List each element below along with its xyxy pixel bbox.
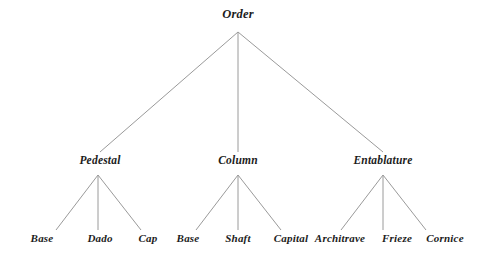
edge-group xyxy=(56,32,426,230)
tree-node-base-col: Base xyxy=(177,232,200,244)
tree-edge-order-to-entablature xyxy=(238,32,383,152)
tree-node-order: Order xyxy=(222,7,254,22)
tree-edge-entablature-to-architrave xyxy=(341,175,383,230)
tree-node-frieze: Frieze xyxy=(382,232,412,244)
tree-edge-pedestal-to-base-ped xyxy=(56,175,98,230)
order-hierarchy-diagram: OrderPedestalColumnEntablatureBaseDadoCa… xyxy=(0,0,481,258)
tree-node-entablature: Entablature xyxy=(353,154,412,166)
tree-edge-pedestal-to-cap xyxy=(98,175,141,230)
tree-node-cap: Cap xyxy=(139,232,158,244)
tree-edge-column-to-base-col xyxy=(196,175,238,230)
tree-node-column: Column xyxy=(218,154,258,166)
tree-node-base-ped: Base xyxy=(31,232,54,244)
tree-node-cornice: Cornice xyxy=(426,232,463,244)
tree-node-pedestal: Pedestal xyxy=(79,154,120,166)
tree-node-shaft: Shaft xyxy=(225,232,250,244)
tree-node-dado: Dado xyxy=(87,232,112,244)
tree-edges-layer xyxy=(0,0,481,258)
tree-node-architrave: Architrave xyxy=(315,232,365,244)
tree-edge-column-to-capital xyxy=(238,175,281,230)
tree-edge-entablature-to-cornice xyxy=(383,175,426,230)
tree-node-capital: Capital xyxy=(274,232,308,244)
tree-edge-order-to-pedestal xyxy=(100,32,238,152)
